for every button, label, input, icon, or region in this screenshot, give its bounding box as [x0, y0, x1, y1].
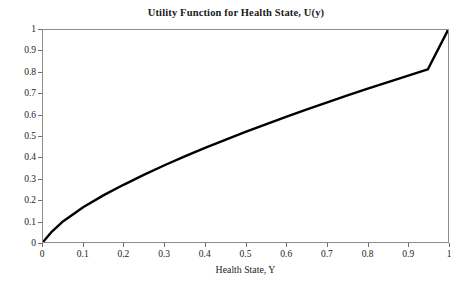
chart-figure: Utility Function for Health State, U(y) …: [0, 0, 472, 289]
y-axis-tick-label: 0.5: [24, 131, 36, 141]
x-axis-tick-label: 0.1: [77, 249, 89, 259]
x-axis-tick-mark: [123, 243, 124, 247]
y-axis-tick-label: 0.8: [24, 67, 36, 77]
x-axis-tick-label: 0.4: [199, 249, 211, 259]
y-axis-tick-label: 0: [31, 238, 36, 248]
y-axis-tick-label: 0.3: [24, 174, 36, 184]
utility-curve-path: [43, 30, 448, 242]
y-axis-tick-label: 0.9: [24, 45, 36, 55]
x-axis-tick-mark: [368, 243, 369, 247]
plot-area: [42, 29, 449, 243]
x-axis-tick-label: 1: [447, 249, 452, 259]
x-axis-tick-label: 0.3: [158, 249, 170, 259]
y-axis-tick-label: 0.7: [24, 88, 36, 98]
y-axis-tick-label: 0.1: [24, 217, 36, 227]
x-axis-label: Health State, Y: [42, 264, 449, 275]
x-axis-tick-mark: [408, 243, 409, 247]
x-axis-tick-label: 0.8: [362, 249, 374, 259]
chart-title: Utility Function for Health State, U(y): [0, 7, 472, 18]
x-axis-tick-label: 0: [40, 249, 45, 259]
x-axis-tick-label: 0.5: [240, 249, 252, 259]
x-axis-tick-label: 0.9: [402, 249, 414, 259]
y-axis-tick-label: 0.4: [24, 152, 36, 162]
utility-curve-svg: [43, 30, 448, 242]
x-axis-tick-label: 0.7: [321, 249, 333, 259]
y-axis-tick-label: 0.6: [24, 110, 36, 120]
x-axis-tick-mark: [449, 243, 450, 247]
x-axis-tick-mark: [205, 243, 206, 247]
x-axis-tick-mark: [246, 243, 247, 247]
x-axis-tick-mark: [164, 243, 165, 247]
x-axis-tick-mark: [83, 243, 84, 247]
x-axis-tick-label: 0.2: [117, 249, 129, 259]
x-axis-tick-mark: [42, 243, 43, 247]
x-axis-tick-mark: [286, 243, 287, 247]
y-axis-tick-label: 1: [31, 24, 36, 34]
x-axis-tick-label: 0.6: [280, 249, 292, 259]
y-axis-tick-label: 0.2: [24, 195, 36, 205]
x-axis-tick-mark: [327, 243, 328, 247]
